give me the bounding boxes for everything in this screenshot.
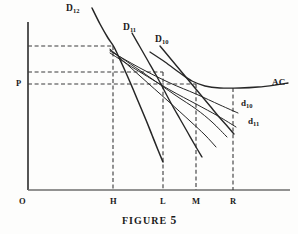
curve-label-d10: d10 (241, 99, 253, 108)
curve-d11 (110, 53, 236, 127)
caption-number: 5 (167, 214, 176, 226)
figure-container: D12 D11 D10 d10 d11 AC P O H L M R FIGUR… (0, 0, 298, 234)
axis-label-L: L (160, 197, 166, 206)
axis-label-P: P (16, 79, 21, 88)
axis-label-H: H (110, 197, 117, 206)
caption-text: FIGURE (122, 215, 168, 226)
curve-AC (150, 52, 288, 88)
axis-label-R: R (230, 197, 236, 206)
curve-label-D10: D10 (155, 35, 168, 45)
curve-label-AC: AC (272, 78, 286, 87)
curve-label-D12: D12 (66, 4, 79, 14)
curve-label-d11: d11 (248, 117, 259, 126)
curves-group (92, 8, 288, 162)
curve-D10 (160, 46, 234, 134)
figure-caption: FIGURE5 (0, 214, 298, 226)
curve-d-extra-1 (110, 50, 227, 137)
curve-D11 (132, 33, 202, 157)
curve-label-D11: D11 (123, 23, 136, 33)
axis-label-O: O (19, 197, 26, 206)
axis-label-M: M (192, 197, 200, 206)
